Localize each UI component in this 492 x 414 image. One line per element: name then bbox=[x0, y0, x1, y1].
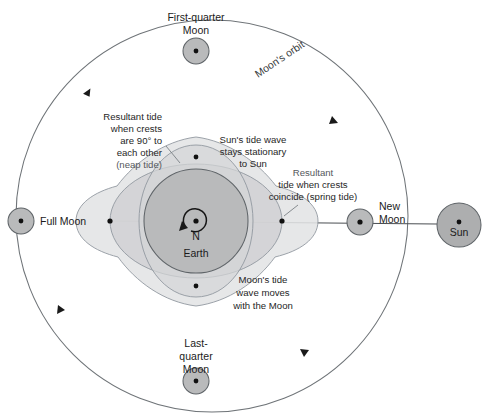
neap-tide-line3: are 90° to bbox=[120, 135, 162, 146]
earth-north-pole-dot bbox=[193, 218, 198, 223]
moons-tide-wave-line2: wave moves bbox=[235, 287, 290, 298]
sun: Sun bbox=[437, 203, 481, 247]
diagram-canvas: Moon's orbit N Earth First bbox=[0, 0, 492, 414]
moons-orbit-label: Moon's orbit bbox=[252, 38, 306, 80]
full-moon-label: Full Moon bbox=[40, 215, 86, 227]
new-moon-center-dot bbox=[357, 219, 362, 224]
new-moon: New Moon bbox=[347, 200, 405, 235]
spring-tide-line1: Resultant bbox=[293, 167, 334, 178]
first-quarter-moon-center-dot bbox=[194, 49, 199, 54]
crest-dot-west bbox=[107, 218, 112, 223]
first-quarter-moon: First-quarter Moon bbox=[167, 11, 225, 64]
north-pole-label: N bbox=[192, 230, 200, 242]
moons-tide-wave-line1: Moon's tide bbox=[239, 274, 288, 285]
crest-dot-south bbox=[194, 284, 199, 289]
last-quarter-moon-label-line2: quarter bbox=[179, 350, 213, 362]
full-moon-center-dot bbox=[19, 219, 24, 224]
last-quarter-moon: Last- quarter Moon bbox=[179, 337, 213, 394]
neap-tide-line2: when crests bbox=[110, 123, 162, 134]
orbit-arrow-northwest bbox=[82, 89, 91, 98]
last-quarter-moon-label-line3: Moon bbox=[183, 363, 209, 375]
spring-tide-line3: coincide (spring tide) bbox=[269, 191, 358, 202]
sun-center-dot bbox=[457, 220, 462, 225]
spring-tide-line2: tide when crests bbox=[278, 179, 348, 190]
new-moon-label-line1: New bbox=[379, 200, 400, 212]
crest-dot-north bbox=[194, 155, 199, 160]
earth-label: Earth bbox=[183, 247, 208, 259]
neap-tide-line5: (neap tide) bbox=[116, 159, 162, 170]
moons-tide-wave-annotation: Moon's tide wave moves with the Moon bbox=[232, 274, 293, 311]
sun-label: Sun bbox=[450, 226, 469, 238]
neap-tide-line4: each other bbox=[117, 147, 163, 158]
orbit-arrow-southeast bbox=[300, 349, 309, 357]
first-quarter-moon-label-line2: Moon bbox=[183, 24, 209, 36]
last-quarter-moon-center-dot bbox=[194, 379, 199, 384]
suns-tide-wave-line3: to Sun bbox=[239, 158, 267, 169]
new-moon-label-line2: Moon bbox=[379, 213, 405, 225]
moons-tide-wave-line3: with the Moon bbox=[232, 300, 293, 311]
first-quarter-moon-label-line1: First-quarter bbox=[167, 11, 225, 23]
neap-tide-line1: Resultant tide bbox=[103, 111, 162, 122]
tides-diagram: Moon's orbit N Earth First bbox=[0, 0, 492, 414]
suns-tide-wave-line1: Sun's tide wave bbox=[220, 134, 287, 145]
full-moon: Full Moon bbox=[8, 208, 86, 234]
moons-orbit-label-text: Moon's orbit bbox=[252, 38, 306, 80]
suns-tide-wave-line2: stays stationary bbox=[220, 146, 287, 157]
orbit-arrow-northeast bbox=[329, 116, 338, 124]
last-quarter-moon-label-line1: Last- bbox=[184, 337, 208, 349]
crest-dot-east bbox=[279, 218, 284, 223]
sun-body bbox=[437, 203, 481, 247]
orbit-arrow-southwest bbox=[57, 305, 65, 314]
